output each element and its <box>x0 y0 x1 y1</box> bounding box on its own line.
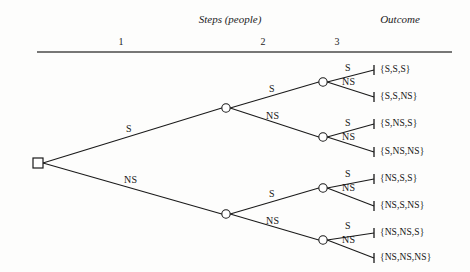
chance-node-n-S-S <box>319 78 327 86</box>
branch-label-level3-2-s: S <box>345 117 351 128</box>
edge-root-to-n-NS <box>43 163 222 214</box>
outcome-label-7: {NS,NS,NS} <box>380 252 431 262</box>
probability-tree-figure: Steps (people) Outcome 123 SNSSNSSNSSNSS… <box>0 0 470 272</box>
branch-label-level2-0-s: S <box>269 83 275 94</box>
branch-label-level2-2-s: S <box>269 188 275 199</box>
edge-root-to-n-S <box>43 108 222 163</box>
chance-node-n-NS <box>222 210 230 218</box>
outcome-label-2: {S,NS,S} <box>380 118 417 128</box>
branch-label-level1-1-ns: NS <box>124 174 137 185</box>
branch-label-level3-0-s: S <box>345 62 351 73</box>
branch-label-level2-3-ns: NS <box>266 215 279 226</box>
chance-node-n-S-NS <box>319 133 327 141</box>
outcome-label-1: {S,S,NS} <box>380 91 417 101</box>
outcome-label-3: {S,NS,NS} <box>380 146 424 156</box>
root-node <box>33 158 43 168</box>
outcome-label-4: {NS,S,S} <box>380 173 417 183</box>
branch-label-level3-4-s: S <box>345 168 351 179</box>
branch-label-level3-6-s: S <box>345 220 351 231</box>
branch-label-level1-0-s: S <box>126 123 132 134</box>
outcome-label-0: {S,S,S} <box>380 64 410 74</box>
chance-node-n-NS-S <box>319 184 327 192</box>
outcome-label-5: {NS,S,NS} <box>380 200 424 210</box>
outcome-label-6: {NS,NS,S} <box>380 227 424 237</box>
branch-label-level3-5-ns: NS <box>342 182 355 193</box>
chance-node-n-NS-NS <box>319 236 327 244</box>
chance-node-n-S <box>222 104 230 112</box>
branch-label-level3-1-ns: NS <box>342 76 355 87</box>
branch-label-level3-3-ns: NS <box>342 131 355 142</box>
branch-label-level3-7-ns: NS <box>342 234 355 245</box>
branch-label-level2-1-ns: NS <box>266 110 279 121</box>
